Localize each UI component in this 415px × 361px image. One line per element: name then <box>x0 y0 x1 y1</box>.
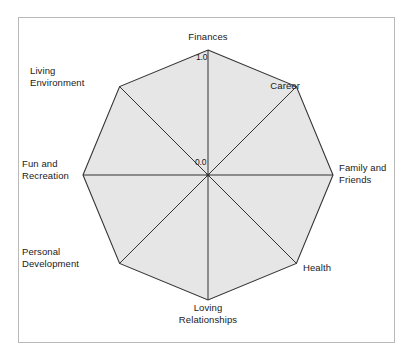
axis-label-living-environment: Living Environment <box>30 65 116 88</box>
axis-label-fun-and-recreation: Fun and Recreation <box>22 158 78 181</box>
chart-center-point <box>206 173 209 176</box>
scale-tick-outer: 1.0 <box>196 52 207 62</box>
axis-label-family-and-friends: Family and Friends <box>339 162 411 185</box>
scale-tick-center: 0.0 <box>195 157 206 167</box>
axis-label-personal-development: Personal Development <box>22 246 114 269</box>
axis-label-finances: Finances <box>170 31 246 43</box>
axis-label-loving-relationships: Loving Relationships <box>155 302 261 325</box>
axis-label-career: Career <box>222 80 300 92</box>
axis-label-health: Health <box>303 262 373 274</box>
